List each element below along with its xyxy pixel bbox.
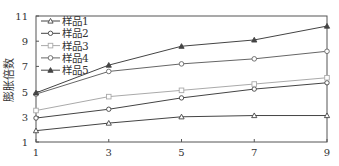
diamond-marker-icon — [179, 62, 184, 67]
circle-marker-icon — [179, 96, 183, 100]
legend-label: 样品1 — [62, 15, 89, 27]
circle-marker-icon — [34, 116, 38, 120]
square-marker-icon — [34, 108, 39, 113]
diamond-marker-icon — [252, 57, 257, 62]
legend-label: 样品5 — [62, 64, 89, 76]
legend-item: 样品5 — [41, 64, 89, 76]
x-tick-label: 1 — [33, 147, 39, 158]
legend-label: 样品4 — [62, 52, 89, 64]
square-marker-icon — [179, 88, 184, 93]
circle-marker-icon — [252, 87, 256, 91]
square-marker-icon — [48, 43, 53, 48]
legend-label: 样品2 — [62, 27, 89, 39]
square-marker-icon — [106, 94, 111, 99]
legend-item: 样品3 — [41, 40, 89, 52]
diamond-marker-icon — [325, 49, 330, 54]
y-tick-label: 7 — [22, 61, 28, 72]
legend: 样品1样品2样品3样品4样品5 — [41, 15, 89, 76]
x-tick-label: 9 — [324, 147, 330, 158]
x-tick-label: 5 — [178, 147, 184, 158]
x-tick-label: 7 — [251, 147, 257, 158]
y-tick-label: 5 — [22, 87, 28, 98]
diamond-marker-icon — [106, 69, 111, 74]
legend-item: 样品2 — [41, 27, 89, 39]
diamond-marker-icon — [48, 56, 53, 61]
square-marker-icon — [325, 75, 330, 80]
legend-item: 样品4 — [41, 52, 89, 64]
filled-triangle-marker-icon — [324, 23, 329, 28]
x-tick-label: 3 — [106, 147, 112, 158]
legend-item: 样品1 — [41, 15, 89, 27]
y-axis-label: 膨胀倍数 — [2, 58, 16, 102]
circle-marker-icon — [107, 107, 111, 111]
y-tick-label: 1 — [22, 137, 28, 148]
square-marker-icon — [252, 82, 257, 87]
line-chart: 135791357911 样品1样品2样品3样品4样品5 膨胀倍数 — [0, 0, 339, 166]
y-tick-label: 11 — [15, 11, 28, 22]
legend-label: 样品3 — [62, 40, 89, 52]
series-1 — [33, 113, 329, 133]
circle-marker-icon — [48, 31, 52, 35]
circle-marker-icon — [325, 81, 329, 85]
y-tick-label: 9 — [22, 36, 28, 47]
y-tick-label: 3 — [22, 112, 28, 123]
